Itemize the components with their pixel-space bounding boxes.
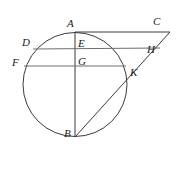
segment-BC — [75, 32, 170, 137]
geometry-figure: A C D E H F G K B — [0, 0, 176, 180]
point-label-e: E — [78, 38, 85, 49]
point-label-k: K — [130, 67, 137, 78]
geometry-canvas — [0, 0, 176, 180]
segment-DH — [33, 48, 160, 49]
point-label-a: A — [67, 18, 74, 29]
point-label-b: B — [64, 128, 71, 139]
point-label-d: D — [22, 37, 30, 48]
point-label-h: H — [147, 44, 155, 55]
point-label-g: G — [78, 56, 86, 67]
point-label-f: F — [12, 57, 19, 68]
point-label-c: C — [153, 16, 160, 27]
